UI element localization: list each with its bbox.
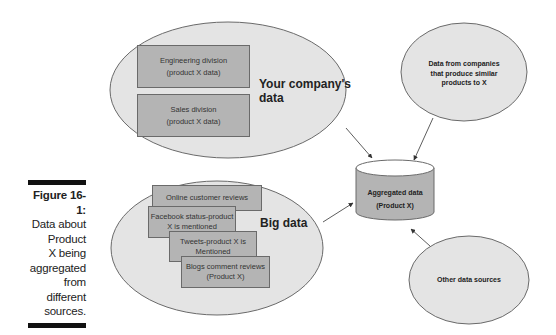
box-line: (product X data)	[167, 67, 221, 79]
caption-top-rule	[28, 180, 86, 185]
label-line: that produce similar	[431, 70, 498, 77]
box-line: (product X data)	[167, 116, 221, 128]
caption-bottom-rule	[28, 323, 86, 328]
caption-line: Product	[28, 232, 86, 247]
label-line: products to X	[441, 79, 486, 86]
label-line: (Product X)	[376, 202, 414, 209]
label-line: Data from companies	[428, 60, 499, 67]
other-sources-label: Other data sources	[419, 275, 519, 285]
box-line: Engineering division	[160, 55, 227, 67]
blogs-comment-box: Blogs comment reviews (Product X)	[181, 256, 270, 288]
similar-companies-label: Data from companies that produce similar…	[416, 59, 512, 88]
caption-line: aggregated	[28, 261, 86, 276]
engineering-division-box: Engineering division (product X data)	[137, 45, 250, 88]
company-data-title: Your company's data	[259, 77, 351, 105]
title-line: data	[259, 91, 284, 105]
caption-line: different	[28, 290, 86, 305]
aggregated-data-label: Aggregated data (Product X)	[356, 186, 434, 212]
caption-line: from	[28, 275, 86, 290]
arrow-bigdata-to-aggregated	[323, 203, 353, 222]
sales-division-box: Sales division (product X data)	[137, 94, 250, 137]
figure-caption: Figure 16-1: Data about Product X being …	[28, 180, 86, 331]
box-line: Tweets-product X is	[180, 237, 246, 247]
box-line: Sales division	[171, 104, 217, 116]
caption-line: X being	[28, 246, 86, 261]
caption-line: Data about	[28, 217, 86, 232]
figure-label: Figure 16-1:	[28, 188, 86, 217]
box-line: Online customer reviews	[166, 192, 248, 204]
arrow-other-to-aggregated	[411, 229, 430, 246]
arrow-company-to-aggregated	[346, 128, 372, 158]
caption-line: sources.	[28, 304, 86, 319]
big-data-title: Big data	[260, 216, 307, 230]
box-line: (Product X)	[207, 272, 245, 282]
label-line: Aggregated data	[367, 189, 422, 196]
arrow-similar-to-aggregated	[414, 118, 433, 160]
box-line: Mentioned	[195, 247, 230, 257]
box-line: Blogs comment reviews	[186, 262, 265, 272]
title-line: Your company's	[259, 77, 351, 91]
box-line: Facebook status-product	[151, 212, 234, 222]
